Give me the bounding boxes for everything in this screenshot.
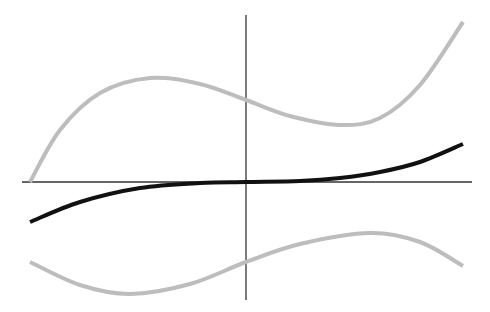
function-plot <box>0 0 490 312</box>
